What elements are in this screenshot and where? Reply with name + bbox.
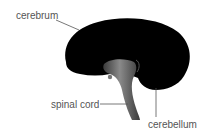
spinal-cord-label: spinal cord	[51, 100, 99, 110]
cerebellum-label: cerebellum	[148, 120, 197, 130]
cerebrum-label: cerebrum	[16, 11, 58, 21]
pituitary-shape	[108, 75, 112, 79]
spinal-cord-shape	[103, 59, 140, 120]
cerebrum-leader-line	[56, 20, 79, 30]
